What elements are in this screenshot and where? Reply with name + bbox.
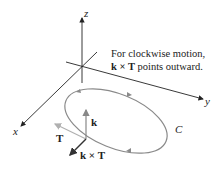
- note-kxt: k × T: [111, 61, 135, 72]
- note-line-2: k × T points outward.: [111, 60, 205, 73]
- t-label: T: [56, 133, 63, 144]
- diagram-canvas: [0, 0, 222, 170]
- curve-label: C: [175, 124, 182, 135]
- annotation-note: For clockwise motion, k × T points outwa…: [111, 47, 205, 73]
- x-axis-label: x: [13, 126, 18, 137]
- note-rest: points outward.: [135, 61, 203, 72]
- kxt-label: k × T: [80, 150, 105, 161]
- z-axis-label: z: [84, 8, 88, 19]
- y-axis-label: y: [205, 96, 210, 107]
- curve-c: [56, 76, 176, 167]
- k-label: k: [91, 117, 97, 128]
- note-line-1: For clockwise motion,: [111, 47, 205, 60]
- curve-arrow-top-right: [127, 92, 132, 97]
